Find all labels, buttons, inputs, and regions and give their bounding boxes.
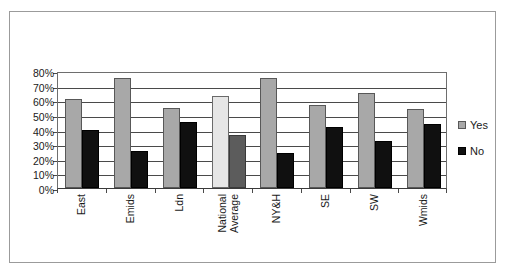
y-axis-tick-label: 80%	[10, 68, 54, 79]
x-axis-label-line: National	[216, 194, 228, 233]
legend-item-no[interactable]: No	[458, 142, 509, 160]
bar-yes-east	[65, 99, 82, 188]
bar-no-emids	[131, 151, 148, 188]
bar-no-national-average	[229, 135, 246, 188]
y-axis-tick-label: 10%	[10, 170, 54, 181]
chart-legend: YesNo	[458, 116, 509, 168]
legend-label: Yes	[470, 120, 488, 131]
x-axis-label-se: SE	[301, 194, 350, 260]
x-axis-tickmark	[203, 189, 204, 193]
bar-yes-se	[309, 105, 326, 188]
y-axis-tick-label: 0%	[10, 185, 54, 196]
y-axis-tick-label: 30%	[10, 141, 54, 152]
bar-yes-emids	[114, 78, 131, 188]
x-axis-label-line: Ldn	[173, 194, 185, 212]
x-axis-label-line: East	[75, 194, 87, 215]
x-axis-label-east: East	[57, 194, 106, 260]
x-axis-tickmark	[350, 189, 351, 193]
x-axis-label-line: Emids	[124, 194, 136, 223]
x-axis-label-sw: SW	[350, 194, 399, 260]
x-axis-label-line: NY&H	[270, 194, 282, 223]
legend-label: No	[470, 146, 484, 157]
x-axis-label-national-average: NationalAverage	[203, 194, 252, 260]
chart-frame: 80%70%60%50%40%30%20%10%0% EastEmidsLdnN…	[9, 11, 496, 263]
bar-yes-wmids	[407, 109, 424, 188]
bar-yes-ny-h	[260, 78, 277, 188]
x-axis-label-emids: Emids	[106, 194, 155, 260]
legend-item-yes[interactable]: Yes	[458, 116, 509, 134]
x-axis-tickmark	[301, 189, 302, 193]
x-axis-label-line: SE	[319, 194, 331, 208]
x-axis-tickmark	[252, 189, 253, 193]
y-axis-tick-label: 40%	[10, 126, 54, 137]
x-axis-label-wmids: Wmids	[398, 194, 447, 260]
y-axis-labels: 80%70%60%50%40%30%20%10%0%	[10, 72, 54, 189]
plot-area	[57, 72, 447, 189]
x-axis-tickmark	[106, 189, 107, 193]
y-axis-tick-label: 20%	[10, 156, 54, 167]
x-axis-label-ldn: Ldn	[155, 194, 204, 260]
x-axis-labels: EastEmidsLdnNationalAverageNY&HSESWWmids	[57, 194, 447, 260]
x-axis-tickmark	[446, 189, 447, 193]
x-axis-tickmark	[155, 189, 156, 193]
bar-yes-national-average	[212, 96, 229, 188]
bar-no-wmids	[424, 124, 441, 188]
x-axis-label-line: SW	[368, 194, 380, 211]
bar-yes-sw	[358, 93, 375, 188]
bar-no-sw	[375, 141, 392, 188]
legend-swatch-yes-icon	[458, 121, 466, 129]
x-axis-tickmark	[57, 189, 58, 193]
x-axis-label-ny-h: NY&H	[252, 194, 301, 260]
y-axis-tick-label: 70%	[10, 82, 54, 93]
bar-yes-ldn	[163, 108, 180, 188]
bar-no-east	[82, 130, 99, 189]
bar-no-ldn	[180, 122, 197, 188]
x-axis-label-line: Average	[228, 194, 240, 233]
y-axis-tick-label: 50%	[10, 112, 54, 123]
bar-no-se	[326, 127, 343, 188]
y-axis-tick-label: 60%	[10, 97, 54, 108]
legend-swatch-no-icon	[458, 147, 466, 155]
bar-no-ny-h	[277, 153, 294, 188]
x-axis-tickmark	[398, 189, 399, 193]
x-axis-label-line: Wmids	[417, 194, 429, 226]
